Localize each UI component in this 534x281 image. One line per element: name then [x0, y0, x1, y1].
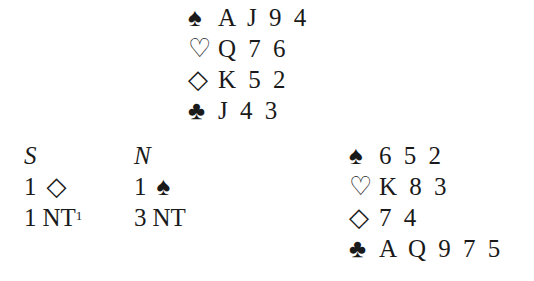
auction-header-north: N: [134, 140, 186, 171]
heart-icon: ♡: [188, 33, 218, 64]
east-spades-cards: 6 5 2: [379, 140, 444, 171]
spade-icon: ♠: [349, 140, 379, 171]
north-hearts-row: ♡ Q 7 6: [188, 33, 309, 64]
bid-strain: NT: [43, 202, 76, 233]
east-hand: ♠ 6 5 2 ♡ K 8 3 ◇ 7 4 ♣ A Q 9 7 5: [349, 140, 503, 264]
diamond-icon: ◇: [188, 64, 218, 95]
east-clubs-row: ♣ A Q 9 7 5: [349, 233, 503, 264]
auction-bid: 1 NT 1: [24, 202, 82, 233]
spade-icon: ♠: [157, 171, 171, 202]
bid-level: 3: [134, 202, 147, 233]
auction-column-north: N 1 ♠ 3 NT: [134, 140, 186, 233]
north-spades-cards: A J 9 4: [218, 2, 309, 33]
auction-bid: 1 ♠: [134, 171, 186, 202]
east-clubs-cards: A Q 9 7 5: [379, 233, 503, 264]
north-hearts-cards: Q 7 6: [218, 33, 289, 64]
bid-level: 1: [134, 171, 147, 202]
east-diamonds-row: ◇ 7 4: [349, 202, 503, 233]
diamond-icon: ◇: [349, 202, 379, 233]
north-clubs-cards: J 4 3: [218, 95, 280, 126]
north-diamonds-row: ◇ K 5 2: [188, 64, 309, 95]
east-spades-row: ♠ 6 5 2: [349, 140, 503, 171]
east-hearts-row: ♡ K 8 3: [349, 171, 503, 202]
north-clubs-row: ♣ J 4 3: [188, 95, 309, 126]
auction-bid: 3 NT: [134, 202, 186, 233]
north-diamonds-cards: K 5 2: [218, 64, 289, 95]
auction-column-south: S 1 ◇ 1 NT 1: [24, 140, 82, 233]
diamond-icon: ◇: [47, 171, 67, 202]
east-diamonds-cards: 7 4: [379, 202, 419, 233]
club-icon: ♣: [188, 95, 218, 126]
heart-icon: ♡: [349, 171, 379, 202]
auction-header-south: S: [24, 140, 82, 171]
north-spades-row: ♠ A J 9 4: [188, 2, 309, 33]
bid-strain: NT: [153, 202, 186, 233]
north-hand: ♠ A J 9 4 ♡ Q 7 6 ◇ K 5 2 ♣ J 4 3: [188, 2, 309, 126]
club-icon: ♣: [349, 233, 379, 264]
bid-level: 1: [24, 202, 37, 233]
east-hearts-cards: K 8 3: [379, 171, 450, 202]
bid-level: 1: [24, 171, 37, 202]
spade-icon: ♠: [188, 2, 218, 33]
auction-bid: 1 ◇: [24, 171, 82, 202]
